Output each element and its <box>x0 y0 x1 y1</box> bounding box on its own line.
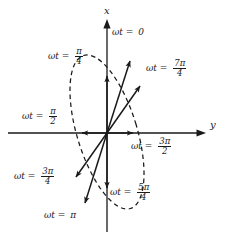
label-wt-0-value: 0 <box>138 28 144 37</box>
label-wt-3pi2-fraction: 3π 2 <box>158 137 171 156</box>
label-wt-pi2-numerator: π <box>49 107 57 116</box>
x-axis-label: x <box>104 5 110 16</box>
label-wt-pi4: ωt = π 4 <box>48 47 83 66</box>
label-wt-pi4-fraction: π 4 <box>75 47 83 66</box>
label-wt-3pi4-prefix: ωt = <box>14 172 35 181</box>
label-wt-7pi4-numerator: 7π <box>173 59 186 68</box>
label-wt-3pi4: ωt = 3π 4 <box>14 167 54 186</box>
field-vectors <box>76 61 140 203</box>
label-wt-pi4-denominator: 4 <box>75 56 83 66</box>
label-wt-5pi4-numerator: 5π <box>137 183 150 192</box>
label-wt-5pi4: ωt = 5π 4 <box>110 183 150 202</box>
label-wt-3pi2-numerator: 3π <box>158 137 171 146</box>
label-wt-pi2-denominator: 2 <box>49 116 57 126</box>
label-wt-pi4-prefix: ωt = <box>48 52 69 61</box>
label-wt-pi2-fraction: π 2 <box>49 107 57 126</box>
label-wt-5pi4-denominator: 4 <box>137 192 150 202</box>
label-wt-3pi4-fraction: 3π 4 <box>41 167 54 186</box>
label-wt-pi2: ωt = π 2 <box>22 107 57 126</box>
label-wt-3pi2-denominator: 2 <box>158 146 171 156</box>
label-wt-pi: ωt = π <box>44 211 76 220</box>
label-wt-0-prefix: ωt = <box>112 28 133 37</box>
label-wt-7pi4: ωt = 7π 4 <box>146 59 186 78</box>
label-wt-pi2-prefix: ωt = <box>22 112 43 121</box>
label-wt-3pi4-numerator: 3π <box>41 167 54 176</box>
label-wt-3pi2: ωt = 3π 2 <box>131 137 171 156</box>
label-wt-3pi2-prefix: ωt = <box>131 142 152 151</box>
vector-wt-3pi4 <box>76 133 107 177</box>
label-wt-0: ωt = 0 <box>112 28 144 37</box>
label-wt-7pi4-prefix: ωt = <box>146 64 167 73</box>
label-wt-pi-prefix: ωt = <box>44 211 65 220</box>
label-wt-5pi4-fraction: 5π 4 <box>137 183 150 202</box>
y-axis-label: y <box>210 119 216 130</box>
label-wt-3pi4-denominator: 4 <box>41 176 54 186</box>
label-wt-7pi4-denominator: 4 <box>173 68 186 78</box>
label-wt-5pi4-prefix: ωt = <box>110 188 131 197</box>
label-wt-pi-value: π <box>70 211 76 220</box>
label-wt-7pi4-fraction: 7π 4 <box>173 59 186 78</box>
label-wt-pi4-numerator: π <box>75 47 83 56</box>
